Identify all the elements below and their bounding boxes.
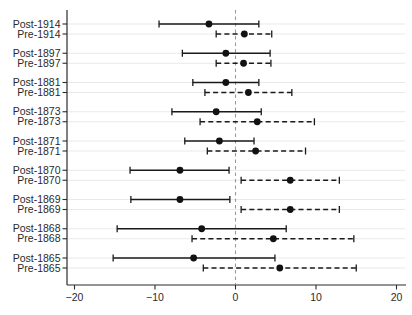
point-estimate: [213, 108, 220, 115]
x-tick-label: −20: [66, 291, 84, 303]
y-tick-label: Pre-1865: [17, 262, 60, 274]
point-estimate: [177, 196, 184, 203]
point-estimate: [222, 50, 229, 57]
y-tick-label: Pre-1881: [17, 86, 60, 98]
point-estimate: [241, 31, 248, 38]
x-tick-label: −10: [146, 291, 164, 303]
x-tick-label: 10: [310, 291, 322, 303]
point-estimate: [198, 225, 205, 232]
y-axis-labels: Post-1914Pre-1914Post-1897Pre-1897Post-1…: [13, 18, 67, 274]
point-estimate: [190, 255, 197, 262]
chart-canvas: Post-1914Pre-1914Post-1897Pre-1897Post-1…: [0, 0, 412, 315]
point-estimate: [177, 167, 184, 174]
x-tick-label: 20: [391, 291, 403, 303]
x-tick-label: 0: [233, 291, 239, 303]
point-estimate: [245, 89, 252, 96]
y-tick-label: Pre-1869: [17, 203, 60, 215]
y-tick-label: Pre-1914: [17, 28, 60, 40]
y-tick-label: Pre-1868: [17, 232, 60, 244]
point-estimate: [276, 265, 283, 272]
y-tick-label: Pre-1897: [17, 57, 60, 69]
point-estimate: [287, 206, 294, 213]
point-estimate: [287, 177, 294, 184]
point-estimate: [254, 118, 261, 125]
point-estimate: [270, 235, 277, 242]
y-tick-label: Pre-1871: [17, 145, 60, 157]
point-estimate: [222, 79, 229, 86]
point-estimate: [206, 21, 213, 28]
point-estimate: [252, 148, 259, 155]
y-tick-label: Pre-1870: [17, 174, 60, 186]
y-tick-label: Pre-1873: [17, 115, 60, 127]
forest-plot-figure: Post-1914Pre-1914Post-1897Pre-1897Post-1…: [0, 0, 412, 315]
point-estimate: [216, 138, 223, 145]
point-estimate: [240, 60, 247, 67]
